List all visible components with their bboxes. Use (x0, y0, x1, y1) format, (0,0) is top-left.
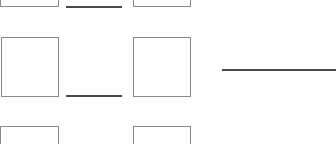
input-box-row3-left[interactable] (0, 126, 59, 144)
blank-underline-top[interactable] (66, 6, 122, 8)
blank-underline-right[interactable] (222, 69, 336, 71)
input-box-row2-left[interactable] (1, 37, 59, 97)
blank-underline-middle[interactable] (66, 95, 122, 97)
input-box-row3-right[interactable] (133, 126, 191, 144)
input-box-row1-left[interactable] (0, 0, 59, 7)
input-box-row1-right[interactable] (133, 0, 191, 7)
input-box-row2-right[interactable] (133, 37, 191, 97)
